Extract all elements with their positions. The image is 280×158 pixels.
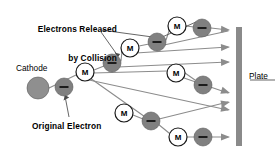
arrow-heads	[220, 26, 231, 141]
electron-track-18	[158, 124, 169, 133]
arrow-head-icon-7	[221, 133, 230, 140]
arrow-head-icon-4	[220, 87, 231, 97]
electron-track-6	[139, 44, 149, 46]
plate-label: Plate	[249, 72, 268, 82]
arrow-head-icon-1	[221, 26, 230, 34]
arrow-head-icon-6	[220, 105, 230, 114]
molecule-letter-m3: M	[174, 22, 181, 31]
electron-minus-sign-e4	[199, 84, 208, 86]
original-electron-label: Original Electron	[32, 122, 101, 132]
cathode-label: Cathode	[16, 64, 47, 74]
electron-track-16	[133, 115, 143, 119]
avalanche-diagram: MMMMMM Electrons Released by Collision C…	[0, 0, 280, 158]
electrons-released-line1: Electrons Released	[9, 25, 117, 35]
plate-bar-icon	[236, 27, 242, 146]
electron-minus-sign-e0	[60, 86, 69, 88]
arrow-head-icon-3	[221, 58, 230, 66]
molecule-letter-m2: M	[127, 44, 134, 53]
electron-minus-sign-e3	[198, 27, 207, 29]
molecule-letter-m5: M	[121, 109, 128, 118]
electrons-released-line2: by Collision	[9, 54, 117, 64]
electron-minus-sign-e6	[199, 136, 208, 138]
molecule-letter-m4: M	[173, 69, 180, 78]
electron-minus-sign-e2	[153, 41, 162, 43]
electron-minus-sign-e5	[147, 120, 156, 122]
plate-bar-icon	[236, 27, 242, 146]
molecule-letter-m6: M	[175, 133, 182, 142]
electron-track-7	[136, 47, 228, 53]
arrow-head-icon-2	[221, 43, 230, 51]
electron-track-17	[159, 102, 228, 119]
